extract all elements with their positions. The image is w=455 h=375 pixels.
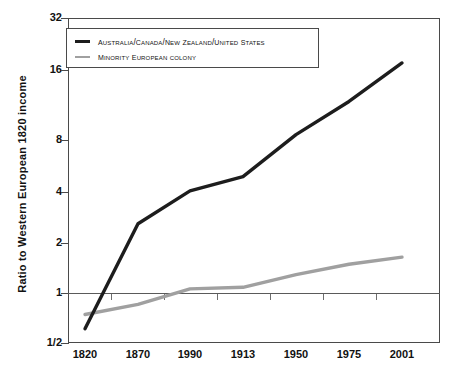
y-tick-label-1: 16 <box>22 64 62 75</box>
reference-tick-5 <box>376 294 377 300</box>
x-tick-label-0: 1820 <box>55 349 115 360</box>
chart-figure: Ratio to Western European 1820 income 32… <box>0 0 455 375</box>
y-tick-mark-3 <box>61 192 69 193</box>
legend-item-anglo-settler-colonies: AUSTRALIA/CANADA/NEW ZEALAND/UNITED STAT… <box>75 34 310 49</box>
y-tick-label-4: 2 <box>22 237 62 248</box>
y-tick-mark-1 <box>61 70 69 71</box>
y-tick-label-3: 4 <box>22 186 62 197</box>
y-tick-mark-6 <box>61 343 69 344</box>
legend-swatch-black <box>75 40 90 43</box>
y-tick-label-2: 8 <box>22 134 62 145</box>
y-tick-mark-2 <box>61 140 69 141</box>
x-tick-label-2: 1990 <box>160 349 220 360</box>
y-axis-title: Ratio to Western European 1820 income <box>16 44 28 324</box>
reference-tick-0 <box>111 294 112 300</box>
legend-item-minority-european-colony: MINORITY EUROPEAN COLONY <box>75 49 310 64</box>
x-tick-label-3: 1913 <box>213 349 273 360</box>
legend-swatch-gray <box>75 56 90 58</box>
y-tick-mark-4 <box>61 243 69 244</box>
x-tick-label-6: 2001 <box>372 349 432 360</box>
x-tick-label-5: 1975 <box>319 349 379 360</box>
y-tick-label-5: 1 <box>22 287 62 298</box>
y-tick-label-0: 32 <box>22 12 62 23</box>
legend-label-anglo-settler-colonies: AUSTRALIA/CANADA/NEW ZEALAND/UNITED STAT… <box>98 36 265 47</box>
y-tick-mark-0 <box>61 18 69 19</box>
reference-line-at-1 <box>68 293 440 294</box>
legend-label-minority-european-colony: MINORITY EUROPEAN COLONY <box>98 51 196 62</box>
reference-tick-2 <box>217 294 218 300</box>
legend: AUSTRALIA/CANADA/NEW ZEALAND/UNITED STAT… <box>66 28 319 68</box>
reference-tick-4 <box>323 294 324 300</box>
reference-tick-3 <box>270 294 271 300</box>
x-tick-label-1: 1870 <box>108 349 168 360</box>
y-tick-label-6: 1/2 <box>22 337 62 348</box>
reference-tick-1 <box>164 294 165 300</box>
x-tick-label-4: 1950 <box>266 349 326 360</box>
